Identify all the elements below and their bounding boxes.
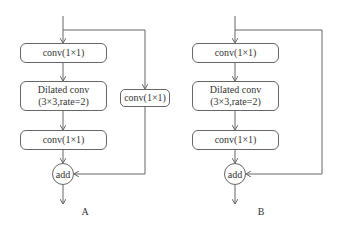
panel-label-b: B: [254, 206, 268, 218]
add-label: add: [56, 169, 70, 180]
connector-lines: [0, 0, 341, 225]
add-label: add: [228, 169, 242, 180]
skip-conv1x1-box-a: conv(1×1): [120, 89, 170, 107]
dilated-conv-params: (3×3,rate=2): [210, 96, 260, 108]
conv1x1-box-a1: conv(1×1): [20, 43, 107, 63]
dilated-conv-box-b: Dilated conv (3×3,rate=2): [192, 81, 279, 111]
add-node-a: add: [52, 163, 74, 185]
conv1x1-label: conv(1×1): [43, 134, 85, 146]
conv1x1-box-b2: conv(1×1): [192, 130, 279, 150]
conv1x1-label: conv(1×1): [215, 134, 257, 146]
skip-conv-label: conv(1×1): [124, 92, 166, 104]
panel-label-a: A: [78, 206, 92, 218]
conv1x1-box-b1: conv(1×1): [192, 43, 279, 63]
add-node-b: add: [224, 163, 246, 185]
conv1x1-label: conv(1×1): [43, 47, 85, 59]
dilated-conv-label: Dilated conv: [210, 84, 261, 96]
conv1x1-box-a2: conv(1×1): [20, 130, 107, 150]
dilated-conv-label: Dilated conv: [38, 84, 89, 96]
dilated-conv-params: (3×3,rate=2): [38, 96, 88, 108]
conv1x1-label: conv(1×1): [215, 47, 257, 59]
dilated-conv-box-a: Dilated conv (3×3,rate=2): [20, 81, 107, 111]
